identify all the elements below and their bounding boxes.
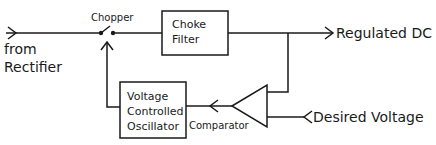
output-edge	[228, 27, 333, 39]
vco-label-line2: Controlled	[127, 105, 184, 118]
vco-label-line3: Oscillator	[127, 120, 179, 133]
comparator-to-vco-edge	[186, 100, 232, 112]
input-label-line1: from	[4, 41, 37, 57]
comparator-label: Comparator	[189, 120, 250, 131]
output-label: Regulated DC	[336, 25, 432, 41]
reference-label: Desired Voltage	[313, 109, 424, 125]
choke-filter-label-line1: Choke	[172, 18, 206, 31]
chopper-switch	[99, 26, 162, 35]
feedback-edge	[267, 33, 288, 92]
block-diagram: from Rectifier Chopper Choke Filter Regu…	[0, 0, 436, 145]
vco-to-chopper-edge	[101, 42, 120, 107]
input-edge	[6, 27, 101, 39]
vco-label-line1: Voltage	[127, 90, 168, 103]
input-label-line2: Rectifier	[4, 59, 62, 75]
choke-filter-label-line2: Filter	[172, 33, 200, 46]
chopper-label: Chopper	[91, 12, 134, 23]
reference-edge	[267, 111, 312, 123]
